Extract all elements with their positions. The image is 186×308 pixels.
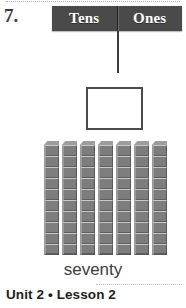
unit-cube (134, 222, 149, 233)
unit-cube (98, 167, 113, 178)
unit-cube (116, 222, 131, 233)
problem-number: 7. (4, 6, 18, 25)
unit-cube (62, 189, 77, 200)
worksheet-problem: 7. Tens Ones seventy Unit 2 • Lesson 2 (0, 0, 186, 308)
place-value-column-tens: Tens (52, 6, 118, 31)
unit-cube (80, 211, 95, 222)
unit-cube (44, 200, 59, 211)
unit-cube (152, 167, 167, 178)
unit-cube (62, 145, 77, 156)
unit-cube (80, 200, 95, 211)
unit-cube (62, 222, 77, 233)
unit-cube (116, 156, 131, 167)
unit-cube (62, 244, 77, 255)
base-ten-rod (62, 141, 77, 258)
unit-cube (62, 156, 77, 167)
unit-cube (116, 233, 131, 244)
unit-cube (152, 189, 167, 200)
unit-cube (80, 222, 95, 233)
unit-cube (80, 233, 95, 244)
unit-cube (44, 145, 59, 156)
unit-cube (116, 244, 131, 255)
unit-cube (80, 178, 95, 189)
unit-cube (134, 233, 149, 244)
unit-cube (62, 211, 77, 222)
unit-cube (116, 145, 131, 156)
place-value-column-ones: Ones (118, 6, 183, 31)
unit-cube (152, 178, 167, 189)
unit-cube (116, 189, 131, 200)
unit-cube (116, 167, 131, 178)
unit-cube (152, 156, 167, 167)
unit-cube (98, 145, 113, 156)
footer-unit-lesson: Unit 2 • Lesson 2 (6, 288, 116, 302)
number-word-label: seventy (0, 261, 186, 278)
unit-cube (44, 167, 59, 178)
unit-cube (134, 178, 149, 189)
unit-cube (80, 145, 95, 156)
unit-cube (134, 244, 149, 255)
unit-cube (134, 200, 149, 211)
unit-cube (98, 200, 113, 211)
unit-cube (62, 200, 77, 211)
unit-cube (98, 178, 113, 189)
unit-cube (152, 222, 167, 233)
unit-cube (98, 189, 113, 200)
unit-cube (152, 233, 167, 244)
unit-cube (152, 200, 167, 211)
unit-cube (80, 244, 95, 255)
unit-cube (44, 178, 59, 189)
ones-column-label: Ones (133, 10, 166, 27)
base-ten-rods-group (44, 141, 174, 258)
base-ten-rod (116, 141, 131, 258)
connector-line (117, 31, 119, 73)
unit-cube (134, 156, 149, 167)
unit-cube (44, 211, 59, 222)
unit-cube (116, 211, 131, 222)
base-ten-rod (152, 141, 167, 258)
unit-cube (62, 233, 77, 244)
unit-cube (98, 211, 113, 222)
unit-cube (98, 244, 113, 255)
base-ten-rod (44, 141, 59, 258)
footer-dotted-rule (96, 284, 182, 286)
unit-cube (116, 200, 131, 211)
unit-cube (44, 244, 59, 255)
tens-column-label: Tens (69, 10, 99, 27)
unit-cube (116, 178, 131, 189)
unit-cube (62, 178, 77, 189)
unit-cube (134, 145, 149, 156)
base-ten-rod (80, 141, 95, 258)
unit-cube (80, 167, 95, 178)
base-ten-rod (98, 141, 113, 258)
unit-cube (152, 211, 167, 222)
unit-cube (134, 167, 149, 178)
unit-cube (44, 222, 59, 233)
base-ten-rod (134, 141, 149, 258)
unit-cube (98, 156, 113, 167)
unit-cube (98, 233, 113, 244)
unit-cube (44, 156, 59, 167)
unit-cube (152, 145, 167, 156)
unit-cube (80, 156, 95, 167)
place-value-chart-header: Tens Ones (52, 6, 182, 31)
unit-cube (152, 244, 167, 255)
top-dotted-rule (6, 1, 180, 3)
unit-cube (134, 211, 149, 222)
unit-cube (44, 233, 59, 244)
unit-cube (134, 189, 149, 200)
unit-cube (98, 222, 113, 233)
unit-cube (44, 189, 59, 200)
unit-cube (80, 189, 95, 200)
unit-cube (62, 167, 77, 178)
answer-box[interactable] (86, 87, 143, 130)
